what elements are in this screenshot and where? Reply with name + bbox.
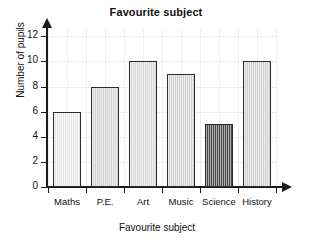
gridline-vertical	[238, 30, 239, 187]
bar-music	[167, 74, 195, 187]
gridline-vertical	[124, 30, 125, 187]
x-axis-arrow-icon	[282, 182, 292, 192]
y-axis-tick-label: 6	[14, 105, 38, 116]
x-axis-tick	[162, 188, 163, 193]
x-axis-tick-label: History	[238, 196, 276, 207]
plot-area	[48, 30, 276, 187]
y-axis-tick	[41, 112, 47, 113]
bar-science	[205, 124, 233, 187]
x-axis-tick	[124, 188, 125, 193]
y-axis-tick-label: 0	[14, 180, 38, 191]
x-axis-tick	[200, 188, 201, 193]
gridline-vertical	[86, 30, 87, 187]
y-axis-tick	[41, 36, 47, 37]
y-axis-tick-label: 4	[14, 130, 38, 141]
x-axis-tick	[48, 188, 49, 193]
y-axis-tick	[41, 187, 47, 188]
bar-history	[243, 61, 271, 187]
y-axis-tick	[41, 87, 47, 88]
y-axis-tick	[41, 137, 47, 138]
bar-art	[129, 61, 157, 187]
gridline-vertical	[48, 30, 49, 187]
x-axis-label: Favourite subject	[42, 222, 272, 233]
x-axis-tick	[238, 188, 239, 193]
y-axis-arrow-icon	[42, 18, 52, 28]
bar-maths	[53, 112, 81, 187]
x-axis-tick-label: Music	[162, 196, 200, 207]
y-axis-tick	[41, 61, 47, 62]
gridline-vertical	[200, 30, 201, 187]
bar-p-e	[91, 87, 119, 187]
y-axis-tick	[41, 162, 47, 163]
x-axis-tick-label: Science	[200, 196, 238, 207]
chart-title: Favourite subject	[0, 6, 312, 18]
y-axis-tick-label: 12	[14, 29, 38, 40]
y-axis-tick-label: 10	[14, 54, 38, 65]
gridline-vertical	[162, 30, 163, 187]
gridline-vertical	[276, 30, 277, 187]
x-axis-tick-label: Maths	[48, 196, 86, 207]
y-axis-tick-label: 2	[14, 155, 38, 166]
x-axis-tick	[276, 188, 277, 193]
x-axis-tick-label: Art	[124, 196, 162, 207]
x-axis-tick	[86, 188, 87, 193]
bar-chart-figure: Favourite subject Number of pupils Favou…	[0, 0, 312, 245]
y-axis-tick-label: 8	[14, 80, 38, 91]
x-axis-tick-label: P.E.	[86, 196, 124, 207]
